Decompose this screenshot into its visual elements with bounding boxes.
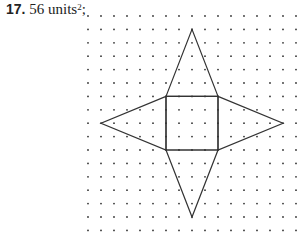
grid-dot bbox=[100, 203, 102, 205]
grid-dot bbox=[191, 109, 193, 111]
grid-dot bbox=[100, 109, 102, 111]
grid-dot bbox=[230, 109, 232, 111]
grid-dot bbox=[256, 55, 258, 57]
grid-dot bbox=[87, 29, 89, 31]
grid-dot bbox=[243, 216, 245, 218]
grid-dot bbox=[230, 136, 232, 138]
grid-dot bbox=[178, 189, 180, 191]
grid-dot bbox=[256, 82, 258, 84]
triangle-face bbox=[218, 96, 283, 150]
grid-dot bbox=[139, 55, 141, 57]
grid-dot bbox=[178, 216, 180, 218]
grid-dot bbox=[126, 96, 128, 98]
grid-dot bbox=[113, 69, 115, 71]
grid-dot bbox=[256, 203, 258, 205]
grid-dot bbox=[230, 69, 232, 71]
grid-dot bbox=[204, 189, 206, 191]
grid-dot bbox=[113, 109, 115, 111]
grid-dot bbox=[191, 15, 193, 17]
grid-dot bbox=[126, 55, 128, 57]
grid-dot bbox=[113, 15, 115, 17]
grid-dot bbox=[126, 42, 128, 44]
grid-dot bbox=[230, 15, 232, 17]
grid-dot bbox=[282, 82, 284, 84]
grid-dot bbox=[178, 122, 180, 124]
grid-dot bbox=[191, 230, 193, 232]
grid-dot bbox=[204, 163, 206, 165]
grid-dot bbox=[256, 189, 258, 191]
grid-dot bbox=[230, 189, 232, 191]
grid-dot bbox=[100, 216, 102, 218]
grid-dot bbox=[191, 55, 193, 57]
grid-dot bbox=[139, 42, 141, 44]
grid-dot bbox=[87, 15, 89, 17]
triangle-face bbox=[166, 29, 218, 96]
dot-grid-net-figure bbox=[0, 0, 303, 242]
grid-dot bbox=[126, 216, 128, 218]
grid-dot bbox=[139, 189, 141, 191]
grid-dot bbox=[178, 109, 180, 111]
grid-dot bbox=[113, 82, 115, 84]
grid-dot bbox=[87, 96, 89, 98]
grid-dot bbox=[217, 15, 219, 17]
grid-dot bbox=[178, 29, 180, 31]
grid-dot bbox=[178, 82, 180, 84]
grid-dot bbox=[126, 69, 128, 71]
grid-dot bbox=[269, 163, 271, 165]
grid-dot bbox=[178, 230, 180, 232]
grid-dot bbox=[256, 163, 258, 165]
grid-dot bbox=[152, 15, 154, 17]
grid-dot bbox=[295, 15, 297, 17]
grid-dot bbox=[165, 163, 167, 165]
grid-dot bbox=[204, 122, 206, 124]
grid-dot bbox=[269, 55, 271, 57]
grid-dot bbox=[126, 136, 128, 138]
grid-dot bbox=[269, 69, 271, 71]
grid-dot bbox=[139, 216, 141, 218]
grid-dot bbox=[191, 176, 193, 178]
grid-dot bbox=[165, 15, 167, 17]
grid-dot bbox=[243, 96, 245, 98]
grid-dot bbox=[269, 42, 271, 44]
grid-dot bbox=[87, 189, 89, 191]
grid-dot bbox=[87, 55, 89, 57]
grid-dot bbox=[295, 149, 297, 151]
grid-dot bbox=[282, 149, 284, 151]
grid-dot bbox=[100, 42, 102, 44]
grid-dot bbox=[139, 29, 141, 31]
grid-dot bbox=[282, 163, 284, 165]
grid-dot bbox=[178, 69, 180, 71]
grid-dot bbox=[139, 176, 141, 178]
grid-dot bbox=[113, 163, 115, 165]
grid-dot bbox=[256, 29, 258, 31]
grid-dot bbox=[165, 55, 167, 57]
grid-dot bbox=[87, 149, 89, 151]
grid-dot bbox=[152, 55, 154, 57]
grid-dot bbox=[230, 176, 232, 178]
grid-dot bbox=[191, 203, 193, 205]
grid-dot bbox=[217, 176, 219, 178]
grid-dot bbox=[256, 96, 258, 98]
grid-dot bbox=[230, 122, 232, 124]
grid-dot bbox=[204, 136, 206, 138]
grid-dot bbox=[269, 189, 271, 191]
grid-dot bbox=[269, 109, 271, 111]
grid-dot bbox=[243, 136, 245, 138]
grid-dot bbox=[100, 163, 102, 165]
grid-dot bbox=[178, 203, 180, 205]
grid-dot bbox=[165, 82, 167, 84]
grid-dot bbox=[295, 203, 297, 205]
grid-dot bbox=[87, 82, 89, 84]
grid-dot bbox=[217, 216, 219, 218]
grid-dot bbox=[243, 203, 245, 205]
grid-dot bbox=[152, 189, 154, 191]
grid-dot bbox=[87, 203, 89, 205]
grid-dot bbox=[295, 176, 297, 178]
grid-dot bbox=[165, 216, 167, 218]
grid-dot bbox=[113, 96, 115, 98]
triangle-face bbox=[166, 150, 218, 217]
grid-dot bbox=[165, 230, 167, 232]
grid-dot bbox=[126, 203, 128, 205]
grid-dot bbox=[230, 55, 232, 57]
grid-dot bbox=[191, 122, 193, 124]
